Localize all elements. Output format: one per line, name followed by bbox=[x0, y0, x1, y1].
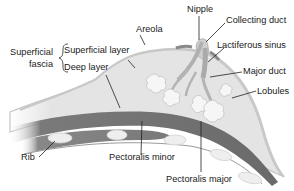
label-rib: Rib bbox=[21, 153, 35, 162]
label-lactiferous-sinus: Lactiferous sinus bbox=[217, 41, 286, 50]
label-major-duct: Major duct bbox=[243, 67, 286, 76]
breast-anatomy-diagram: Nipple Areola Collecting duct Lactiferou… bbox=[0, 0, 294, 191]
label-collecting-duct: Collecting duct bbox=[226, 16, 286, 25]
label-deep-layer: Deep layer bbox=[64, 63, 108, 72]
label-areola: Areola bbox=[136, 25, 163, 34]
label-superficial-fascia-line2: fascia bbox=[6, 60, 53, 69]
label-pectoralis-major: Pectoralis major bbox=[166, 175, 232, 184]
label-nipple: Nipple bbox=[187, 5, 213, 14]
label-lobules: Lobules bbox=[257, 87, 289, 96]
areola bbox=[176, 46, 192, 48]
label-superficial-fascia-line1: Superficial bbox=[6, 48, 53, 57]
label-pectoralis-minor: Pectoralis minor bbox=[109, 153, 175, 162]
lactiferous-sinus bbox=[203, 48, 205, 78]
label-superficial-layer: Superficial layer bbox=[64, 46, 129, 55]
